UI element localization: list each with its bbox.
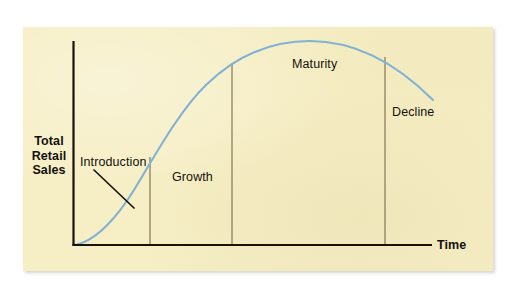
stage-label-growth: Growth (172, 170, 213, 185)
figure-container: TotalRetailSales Time Introduction Growt… (0, 0, 515, 288)
stage-label-introduction: Introduction (80, 155, 147, 170)
introduction-leader-line (94, 170, 134, 208)
y-axis-label: TotalRetailSales (26, 134, 72, 178)
sales-curve (73, 41, 433, 245)
stage-label-decline: Decline (392, 105, 434, 120)
stage-label-maturity: Maturity (292, 57, 337, 72)
x-axis-label: Time (437, 238, 466, 253)
